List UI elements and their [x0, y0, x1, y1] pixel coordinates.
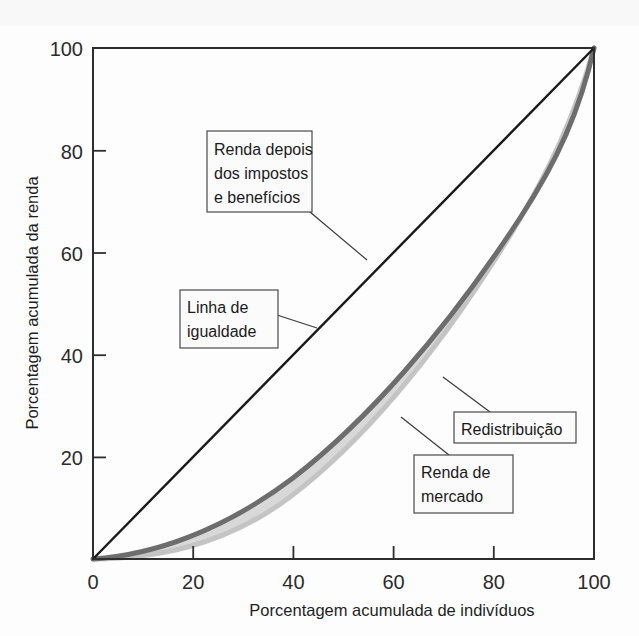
equality-line: [93, 48, 594, 559]
callout-equality-line-1: Linha de: [187, 299, 248, 316]
callout-after-tax-line-1: Renda depois: [214, 141, 313, 158]
callout-after-tax-line-2: dos impostos: [214, 165, 308, 182]
y-tick-label-100: 100: [50, 38, 83, 60]
y-axis-title: Porcentagem acumulada da renda: [23, 176, 41, 430]
callout-equality-leader: [277, 315, 317, 328]
callout-market-income-line-2: mercado: [421, 488, 483, 505]
callout-after-tax-line-3: e benefícios: [214, 189, 300, 206]
x-tick-label-60: 60: [382, 571, 404, 593]
y-tick-label-80: 80: [61, 141, 83, 163]
x-tick-label-100: 100: [577, 571, 610, 593]
callout-market-income-leader: [401, 417, 449, 455]
x-axis-ticks: [193, 546, 494, 559]
x-tick-label-40: 40: [282, 571, 304, 593]
callout-redistribution[interactable]: Redistribuição: [443, 377, 576, 443]
callout-equality-line-2: igualdade: [187, 323, 257, 340]
callout-market-income-line-1: Renda de: [421, 464, 490, 481]
callout-after-tax[interactable]: Renda depois dos impostos e benefícios: [207, 131, 367, 260]
callout-redistribution-leader: [443, 377, 490, 412]
callout-redistribution-label: Redistribuição: [461, 421, 562, 438]
y-tick-label-40: 40: [61, 345, 83, 367]
x-tick-label-0: 0: [87, 571, 98, 593]
callout-after-tax-leader: [310, 212, 367, 260]
chart-canvas: 100 80 60 40 20 0 20 40 60 80 100 Porcen…: [0, 0, 639, 636]
x-axis-title: Porcentagem acumulada de indivíduos: [249, 601, 534, 619]
y-tick-label-20: 20: [61, 447, 83, 469]
x-tick-label-20: 20: [182, 571, 204, 593]
y-axis-ticks: [93, 151, 106, 458]
x-tick-label-80: 80: [483, 571, 505, 593]
y-tick-label-60: 60: [61, 243, 83, 265]
lorenz-curve-figure: 100 80 60 40 20 0 20 40 60 80 100 Porcen…: [0, 0, 639, 636]
callout-equality[interactable]: Linha de igualdade: [180, 290, 317, 348]
